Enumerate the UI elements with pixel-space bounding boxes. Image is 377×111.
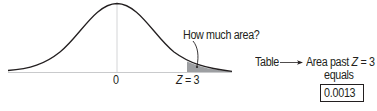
callout-pointer-dot bbox=[196, 66, 198, 68]
callout-leader-line bbox=[193, 41, 198, 66]
z-value: = 3 bbox=[182, 73, 199, 87]
z-equals-3-label: Z = 3 bbox=[176, 73, 199, 87]
how-much-area-callout: How much area? bbox=[183, 28, 259, 42]
table-label: Table bbox=[255, 55, 279, 69]
center-zero-label: 0 bbox=[113, 73, 119, 87]
area-past-z-value: = 3 bbox=[358, 55, 375, 69]
equals-label: equals bbox=[324, 68, 354, 82]
area-past-prefix: Area past bbox=[306, 55, 352, 69]
result-value: 0.0013 bbox=[324, 86, 355, 100]
area-past-z-label: Area past Z = 3 bbox=[306, 55, 375, 69]
result-value-box: 0.0013 bbox=[320, 84, 364, 102]
